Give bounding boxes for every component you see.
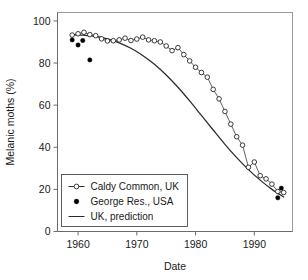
- uk-data-point: [276, 189, 281, 194]
- uk-data-point: [170, 48, 175, 53]
- uk-data-point: [211, 87, 216, 92]
- uk-data-point: [140, 35, 145, 40]
- uk-data-point: [152, 38, 157, 43]
- figure-container: 020406080100 Melanic moths (%) 196019701…: [0, 0, 308, 280]
- uk-data-point: [111, 38, 116, 43]
- uk-data-point: [123, 36, 128, 41]
- uk-data-point: [281, 190, 286, 195]
- uk-data-point: [264, 177, 269, 182]
- uk-data-point: [99, 37, 104, 42]
- usa-data-point: [279, 186, 283, 190]
- uk-data-point: [164, 44, 169, 49]
- y-tick-label: 20: [39, 183, 51, 195]
- uk-data-point: [129, 38, 134, 43]
- uk-data-point: [176, 45, 181, 50]
- uk-data-point: [76, 31, 81, 36]
- uk-data-point: [88, 32, 93, 37]
- y-tick-label: 60: [39, 99, 51, 111]
- uk-data-point: [135, 37, 140, 42]
- x-tick-label: 1980: [184, 238, 208, 250]
- uk-data-point: [229, 122, 234, 127]
- uk-data-point: [193, 65, 198, 70]
- uk-data-point: [223, 109, 228, 114]
- y-tick-label: 40: [39, 141, 51, 153]
- uk-data-point: [258, 173, 263, 178]
- uk-data-point: [199, 70, 204, 75]
- melanic-moths-chart: 020406080100 Melanic moths (%) 196019701…: [0, 0, 308, 280]
- legend-item-label: UK, prediction: [91, 211, 154, 222]
- uk-data-point: [146, 38, 151, 43]
- usa-data-point: [70, 38, 74, 42]
- uk-data-point: [70, 33, 75, 38]
- x-tick-label: 1990: [243, 238, 267, 250]
- chart-legend: Caldy Common, UKGeorge Res., USAUK, pred…: [62, 175, 188, 227]
- legend-filled-circle-icon: [74, 199, 79, 204]
- uk-data-point: [246, 165, 251, 170]
- uk-data-point: [117, 38, 122, 43]
- uk-data-point: [240, 143, 245, 148]
- y-tick-label: 80: [39, 57, 51, 69]
- legend-open-circle-icon: [74, 184, 79, 189]
- uk-data-point: [105, 39, 110, 44]
- legend-item-label: George Res., USA: [91, 196, 174, 207]
- x-tick-label: 1960: [66, 238, 90, 250]
- uk-data-point: [234, 134, 239, 139]
- x-tick-label: 1970: [125, 238, 149, 250]
- uk-data-point: [93, 33, 98, 38]
- usa-data-point: [81, 38, 85, 42]
- usa-data-point: [276, 196, 280, 200]
- y-tick-label: 100: [33, 15, 51, 27]
- usa-data-point: [76, 43, 80, 47]
- y-axis-title: Melanic moths (%): [4, 79, 16, 166]
- uk-data-point: [205, 75, 210, 80]
- uk-data-point: [187, 59, 192, 64]
- y-tick-label: 0: [45, 225, 51, 237]
- uk-data-point: [217, 97, 222, 102]
- legend-item-label: Caldy Common, UK: [91, 181, 180, 192]
- uk-data-point: [270, 182, 275, 187]
- x-axis-title: Date: [164, 260, 186, 272]
- uk-data-point: [252, 160, 257, 165]
- uk-data-point: [82, 30, 87, 35]
- uk-data-point: [182, 52, 187, 57]
- uk-data-point: [158, 40, 163, 45]
- usa-data-point: [88, 58, 92, 62]
